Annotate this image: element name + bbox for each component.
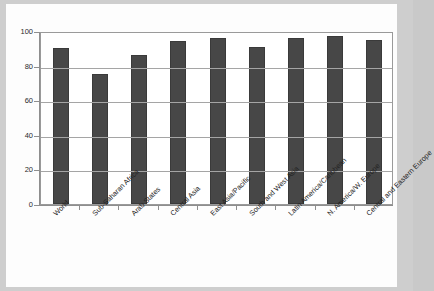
x-tick-mark [315, 205, 316, 210]
x-tick-mark [236, 205, 237, 210]
y-tick-mark [34, 170, 40, 171]
y-tick-mark [34, 136, 40, 137]
y-axis-labels: 020406080100 [0, 0, 33, 291]
x-tick-mark [354, 205, 355, 210]
plot-area [40, 32, 393, 205]
bar [53, 48, 69, 204]
bar-series [41, 33, 392, 204]
y-tick-label: 40 [5, 132, 33, 140]
y-tick-label: 0 [5, 201, 33, 209]
x-tick-mark [158, 205, 159, 210]
x-tick-mark [118, 205, 119, 210]
bar [131, 55, 147, 204]
gridline [41, 102, 392, 103]
gridline [41, 68, 392, 69]
bar [92, 74, 108, 204]
bar [170, 41, 186, 204]
y-tick-label: 80 [5, 63, 33, 71]
y-tick-mark [34, 67, 40, 68]
x-tick-mark [79, 205, 80, 210]
gridline [41, 171, 392, 172]
gridline [41, 137, 392, 138]
y-tick-label: 20 [5, 166, 33, 174]
x-tick-mark [275, 205, 276, 210]
y-tick-label: 100 [5, 28, 33, 36]
x-tick-mark [197, 205, 198, 210]
y-tick-mark [34, 32, 40, 33]
y-tick-mark [34, 101, 40, 102]
bar [210, 38, 226, 204]
y-tick-mark [34, 205, 40, 206]
y-tick-label: 60 [5, 97, 33, 105]
